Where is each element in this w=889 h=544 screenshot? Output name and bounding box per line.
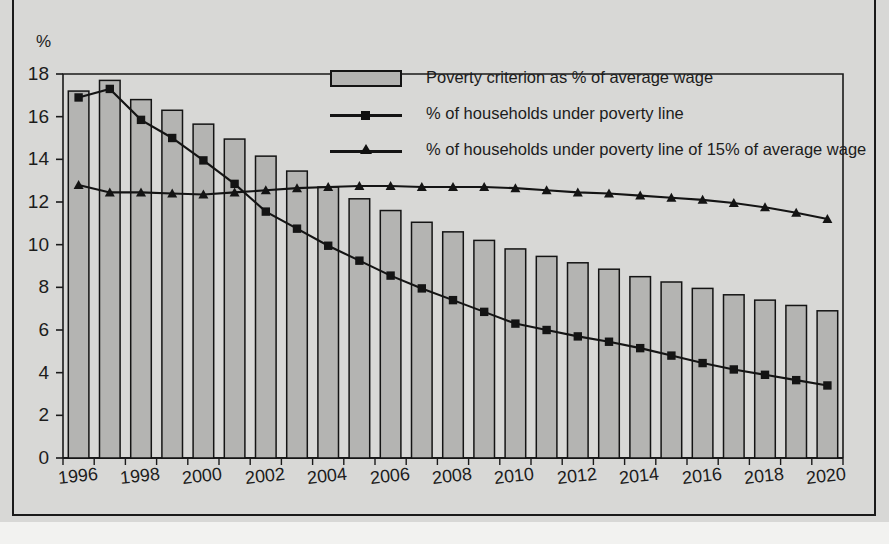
bar bbox=[287, 171, 308, 458]
bar bbox=[599, 269, 620, 458]
square-marker bbox=[106, 85, 114, 93]
square-marker bbox=[293, 224, 301, 232]
square-marker bbox=[511, 319, 519, 327]
square-marker bbox=[730, 365, 738, 373]
bar bbox=[162, 110, 183, 458]
square-marker bbox=[480, 308, 488, 316]
square-marker bbox=[698, 359, 706, 367]
bar bbox=[131, 100, 152, 458]
legend-label: Poverty criterion as % of average wage bbox=[426, 68, 713, 87]
square-marker bbox=[168, 134, 176, 142]
square-marker bbox=[605, 338, 613, 346]
bar bbox=[505, 249, 526, 458]
poverty-chart: % 024681012141618 1996199820002002200420… bbox=[0, 0, 889, 544]
square-marker bbox=[355, 256, 363, 264]
bar bbox=[692, 288, 713, 458]
bar bbox=[724, 295, 745, 458]
legend-label: % of households under poverty line bbox=[426, 104, 684, 123]
bar bbox=[256, 156, 277, 458]
bar bbox=[474, 240, 495, 458]
legend-bar-swatch bbox=[330, 70, 402, 87]
square-marker bbox=[74, 93, 82, 101]
legend-triangle-marker-icon bbox=[360, 144, 372, 154]
square-marker bbox=[574, 332, 582, 340]
bar bbox=[443, 232, 464, 458]
square-marker bbox=[542, 326, 550, 334]
square-marker bbox=[449, 296, 457, 304]
bar bbox=[100, 80, 121, 458]
legend-square-marker-icon bbox=[361, 111, 370, 120]
square-marker bbox=[262, 207, 270, 215]
bar bbox=[536, 256, 557, 458]
square-marker bbox=[137, 116, 145, 124]
bar bbox=[68, 91, 89, 458]
square-marker bbox=[636, 344, 644, 352]
bar bbox=[193, 124, 214, 458]
square-marker bbox=[230, 180, 238, 188]
bar bbox=[661, 282, 682, 458]
bar bbox=[412, 222, 433, 458]
bar bbox=[755, 300, 776, 458]
square-marker bbox=[418, 284, 426, 292]
bar bbox=[630, 277, 651, 458]
bar bbox=[568, 263, 589, 458]
scanned-page: % 024681012141618 1996199820002002200420… bbox=[0, 0, 889, 544]
square-marker bbox=[823, 381, 831, 389]
bar bbox=[318, 187, 339, 458]
bar bbox=[380, 211, 401, 458]
legend-label: % of households under poverty line of 15… bbox=[426, 140, 866, 159]
square-marker bbox=[324, 242, 332, 250]
square-marker bbox=[199, 156, 207, 164]
square-marker bbox=[792, 376, 800, 384]
square-marker bbox=[667, 351, 675, 359]
square-marker bbox=[761, 371, 769, 379]
square-marker bbox=[386, 271, 394, 279]
bar bbox=[349, 199, 370, 458]
